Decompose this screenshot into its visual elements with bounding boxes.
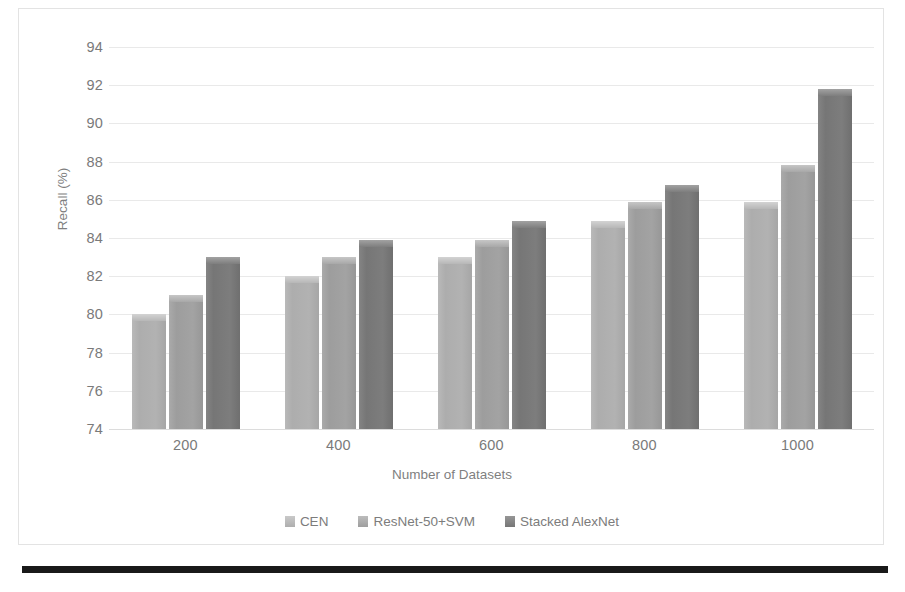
bar[interactable] — [359, 240, 393, 429]
bar-cap — [818, 89, 852, 96]
legend-swatch-icon — [358, 516, 368, 527]
bar[interactable] — [665, 185, 699, 429]
chart-figure: Recall (%) 7476788082848688909294 200400… — [0, 0, 905, 592]
bar[interactable] — [591, 221, 625, 429]
y-tick-label: 94 — [69, 40, 103, 55]
gridline — [109, 429, 874, 430]
x-tick-label: 600 — [447, 437, 537, 453]
bar-cap — [744, 202, 778, 209]
bar-cap — [285, 276, 319, 283]
bar[interactable] — [132, 314, 166, 429]
bar[interactable] — [628, 202, 662, 429]
bar[interactable] — [475, 240, 509, 429]
legend-item[interactable]: ResNet-50+SVM — [358, 514, 475, 529]
chart-card: Recall (%) 7476788082848688909294 200400… — [18, 8, 884, 545]
bar-cap — [512, 221, 546, 228]
bar[interactable] — [781, 165, 815, 429]
legend-label: ResNet-50+SVM — [373, 514, 475, 529]
legend-item[interactable]: Stacked AlexNet — [505, 514, 619, 529]
bar-cap — [591, 221, 625, 228]
bar[interactable] — [818, 89, 852, 429]
bar-cap — [322, 257, 356, 264]
bar-group — [589, 47, 701, 429]
bar[interactable] — [285, 276, 319, 429]
bar-group — [436, 47, 548, 429]
bar[interactable] — [744, 202, 778, 429]
bars-layer — [109, 47, 874, 429]
y-tick-label: 86 — [69, 193, 103, 208]
y-tick-label: 84 — [69, 231, 103, 246]
bar-cap — [781, 165, 815, 172]
bar-cap — [475, 240, 509, 247]
bar-cap — [438, 257, 472, 264]
bar-group — [130, 47, 242, 429]
bar-group — [283, 47, 395, 429]
x-axis-title: Number of Datasets — [19, 467, 885, 482]
bar[interactable] — [169, 295, 203, 429]
x-axis-tick-labels: 2004006008001000 — [109, 433, 874, 459]
plot-area — [109, 47, 874, 429]
legend-label: Stacked AlexNet — [520, 514, 619, 529]
x-tick-label: 800 — [600, 437, 690, 453]
legend-label: CEN — [300, 514, 329, 529]
y-tick-label: 90 — [69, 116, 103, 131]
x-tick-label: 200 — [141, 437, 231, 453]
y-tick-label: 76 — [69, 384, 103, 399]
bar[interactable] — [322, 257, 356, 429]
bar[interactable] — [438, 257, 472, 429]
bar-cap — [169, 295, 203, 302]
bottom-scan-rule — [22, 566, 888, 573]
bar-group — [742, 47, 854, 429]
y-tick-label: 92 — [69, 78, 103, 93]
y-tick-label: 88 — [69, 154, 103, 169]
legend-item[interactable]: CEN — [285, 514, 329, 529]
y-tick-label: 80 — [69, 307, 103, 322]
bar[interactable] — [206, 257, 240, 429]
bar[interactable] — [512, 221, 546, 429]
x-tick-label: 1000 — [753, 437, 843, 453]
y-tick-label: 74 — [69, 422, 103, 437]
chart-legend: CENResNet-50+SVMStacked AlexNet — [19, 514, 885, 529]
bar-cap — [665, 185, 699, 192]
y-tick-label: 82 — [69, 269, 103, 284]
bar-cap — [359, 240, 393, 247]
legend-swatch-icon — [505, 516, 515, 527]
bar-cap — [628, 202, 662, 209]
y-axis-tick-labels: 7476788082848688909294 — [63, 47, 103, 429]
y-tick-label: 78 — [69, 345, 103, 360]
legend-swatch-icon — [285, 516, 295, 527]
bar-cap — [132, 314, 166, 321]
bar-cap — [206, 257, 240, 264]
x-tick-label: 400 — [294, 437, 384, 453]
